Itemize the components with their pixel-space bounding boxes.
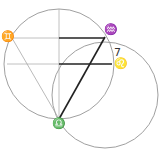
aquarius-symbol: ♒: [104, 24, 118, 35]
gemini-symbol: ♊: [1, 31, 15, 42]
leo-symbol: ♌: [114, 58, 128, 69]
libra-symbol: ♎: [52, 118, 66, 129]
diagonal-thick: [59, 37, 105, 119]
diagonal-thin: [12, 38, 59, 119]
geometric-diagram: [0, 0, 165, 152]
